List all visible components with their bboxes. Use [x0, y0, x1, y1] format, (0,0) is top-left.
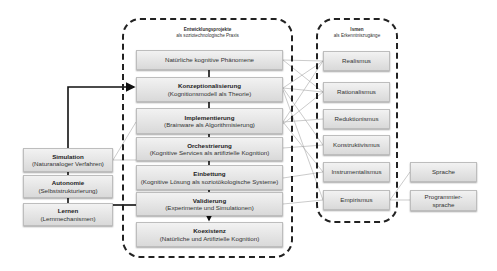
box-orchestration: Orchestrierung (Kognitive Services als a…: [136, 137, 283, 161]
box-subtitle: (Experimente und Simulationen): [165, 204, 253, 212]
box-label: Konstruktivismus: [333, 141, 380, 149]
box-title: Lernen: [58, 207, 79, 215]
box-subtitle: (Kognitive Lösung als soziotökologische …: [141, 178, 279, 186]
box-subtitle: (Selbststrukturierung): [38, 187, 97, 195]
box-label: Natürliche kognitive Phänomene: [165, 56, 254, 64]
box-label: Instrumentalismus: [331, 168, 381, 176]
box-title: Simulation: [52, 153, 84, 161]
box-subtitle: (Naturanaloger Verfahren): [32, 160, 104, 168]
box-label: Programmier- sprache: [425, 193, 463, 208]
box-natural-cognitive-phenomena: Natürliche kognitive Phänomene: [136, 50, 283, 70]
box-title: Koexistenz: [193, 227, 226, 235]
box-simulation: Simulation (Naturanaloger Verfahren): [23, 148, 113, 172]
box-implementation: Implementierung (Brainware als Algorithm…: [136, 108, 283, 134]
box-subtitle: (Lernmechanismen): [40, 215, 95, 223]
box-constructivism: Konstruktivismus: [323, 135, 390, 155]
box-empiricism: Empirismus: [323, 190, 390, 210]
box-rationalism: Rationalismus: [323, 82, 390, 102]
box-title: Einbettung: [193, 170, 225, 178]
box-subtitle: (Brainware als Algorithmisierung): [164, 121, 255, 129]
box-realism: Realismus: [323, 51, 390, 71]
box-embedding: Einbettung (Kognitive Lösung als soziotö…: [136, 165, 283, 190]
box-reductionism: Reduktionismus: [323, 109, 390, 129]
box-language: Sprache: [410, 162, 477, 182]
box-programming-language: Programmier- sprache: [410, 190, 477, 211]
box-validation: Validierung (Experimente und Simulatione…: [136, 192, 283, 216]
box-subtitle: (Natürliche und Artifizielle Kognition): [160, 235, 259, 243]
box-label: Sprache: [432, 168, 455, 176]
box-label: Empirismus: [340, 196, 372, 204]
isms-title: Ismen: [350, 27, 363, 32]
box-learning: Lernen (Lernmechanismen): [23, 203, 113, 226]
box-subtitle: (Kognitive Services als artifizielle Kog…: [150, 149, 270, 157]
box-title: Validierung: [193, 197, 226, 205]
box-title: Konzeptionalisierung: [178, 82, 241, 90]
box-subtitle: (Kognitionsmodell als Theorie): [168, 90, 251, 98]
box-title: Implementierung: [185, 114, 235, 122]
box-instrumentalism: Instrumentalismus: [323, 162, 390, 182]
isms-heading: Ismen als Erkenntniszugänge: [316, 27, 398, 39]
development-projects-title: Entwicklungsprojekte: [184, 27, 231, 32]
box-conceptualization: Konzeptionalisierung (Kognitionsmodell a…: [136, 77, 283, 102]
box-label: Realismus: [342, 57, 371, 65]
isms-subtitle: als Erkenntniszugänge: [334, 33, 380, 38]
box-title: Autonomie: [52, 179, 84, 187]
box-autonomy: Autonomie (Selbststrukturierung): [23, 175, 113, 198]
box-label: Rationalismus: [337, 88, 376, 96]
development-projects-subtitle: als soziotechnologische Praxis: [176, 33, 239, 38]
box-title: Orchestrierung: [187, 142, 232, 150]
box-label: Reduktionismus: [334, 115, 378, 123]
box-coexistence: Koexistenz (Natürliche und Artifizielle …: [136, 222, 283, 247]
development-projects-heading: Entwicklungsprojekte als soziotechnologi…: [122, 27, 293, 39]
